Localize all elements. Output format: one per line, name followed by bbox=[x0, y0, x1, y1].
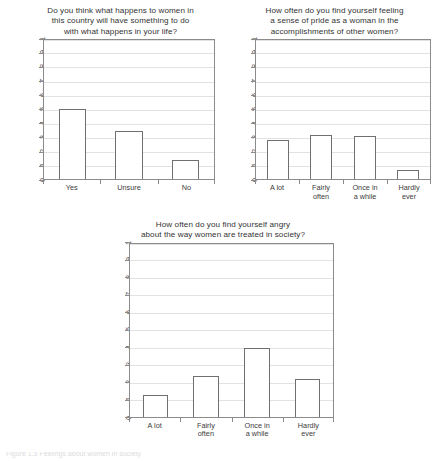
bar-chart-2-2 bbox=[354, 136, 376, 179]
bar-chart-3-0 bbox=[143, 395, 168, 417]
bar-chart-1-0 bbox=[59, 109, 86, 179]
chart-3-ytick-mark bbox=[125, 260, 129, 261]
chart-1-ytick-mark bbox=[39, 109, 43, 110]
chart-3-ytick-mark bbox=[125, 330, 129, 331]
chart-2-ytick-mark bbox=[251, 67, 255, 68]
chart-3-xtick-label: Once in a while bbox=[245, 422, 270, 439]
chart-1-ytick-mark bbox=[39, 53, 43, 54]
chart-1-bars bbox=[44, 40, 214, 179]
chart-1-xtick-label: No bbox=[182, 184, 191, 192]
chart-3-ytick-mark bbox=[125, 400, 129, 401]
chart-2-plot-area: 0.1.2.3.4.5.6.7.8.91 A lotFairly oftenOn… bbox=[238, 39, 431, 180]
chart-2-title: How often do you find yourself feeling a… bbox=[238, 6, 431, 37]
bar-chart-1-2 bbox=[172, 160, 199, 179]
chart-2-ytick-mark bbox=[251, 81, 255, 82]
figure-caption-text: Figure 1.5 Feelings about women in socie… bbox=[6, 452, 426, 458]
chart-2-xtick-label: Once in a while bbox=[352, 184, 377, 201]
chart-1-ytick-mark bbox=[39, 39, 43, 40]
chart-1-ytick-mark bbox=[39, 123, 43, 124]
bar-chart-2-1 bbox=[310, 135, 332, 179]
chart-2-ytick-mark bbox=[251, 53, 255, 54]
chart-1-ytick-mark bbox=[39, 95, 43, 96]
chart-2-x-axis-labels: A lotFairly oftenOnce in a whileHardly e… bbox=[255, 184, 431, 204]
figure-caption: Figure 1.5 Feelings about women in socie… bbox=[6, 452, 426, 461]
chart-2-xtick-label: Hardly ever bbox=[398, 184, 419, 201]
chart-2-bars bbox=[256, 40, 430, 179]
chart-3-xtick-label: A lot bbox=[148, 422, 162, 430]
chart-1-xtick-label: Yes bbox=[66, 184, 78, 192]
chart-1-xtick-label: Unsure bbox=[117, 184, 141, 192]
chart-1-ytick-mark bbox=[39, 67, 43, 68]
chart-panel-1: Do you think what happens to women in th… bbox=[26, 6, 215, 180]
bar-chart-2-0 bbox=[267, 140, 289, 180]
chart-3-ytick-mark bbox=[125, 365, 129, 366]
chart-1-ytick-mark bbox=[39, 152, 43, 153]
bar-chart-3-2 bbox=[244, 348, 269, 417]
chart-1-x-axis-labels: YesUnsureNo bbox=[43, 184, 215, 204]
bar-chart-3-3 bbox=[295, 379, 320, 417]
chart-3-ytick-mark bbox=[125, 347, 129, 348]
chart-3-title: How often do you find yourself angry abo… bbox=[112, 220, 334, 241]
chart-1-ytick-mark bbox=[39, 81, 43, 82]
chart-1-plot-area: 0.1.2.3.4.5.6.7.8.91 YesUnsureNo bbox=[26, 39, 215, 180]
bar-chart-3-1 bbox=[193, 376, 218, 417]
chart-2-plot-frame bbox=[255, 39, 431, 180]
bar-chart-2-3 bbox=[397, 170, 419, 179]
chart-3-ytick-mark bbox=[125, 382, 129, 383]
chart-3-ytick-mark bbox=[125, 242, 129, 243]
chart-3-xtick-label: Fairly often bbox=[197, 422, 215, 439]
chart-1-plot-frame bbox=[43, 39, 215, 180]
chart-panel-3: How often do you find yourself angry abo… bbox=[112, 220, 334, 418]
chart-1-ytick-mark bbox=[39, 166, 43, 167]
chart-3-x-axis-labels: A lotFairly oftenOnce in a whileHardly e… bbox=[129, 422, 334, 442]
chart-2-ytick-mark bbox=[251, 123, 255, 124]
chart-2-ytick-mark bbox=[251, 152, 255, 153]
chart-2-xtick-label: Fairly often bbox=[312, 184, 330, 201]
chart-3-xtick-label: Hardly ever bbox=[298, 422, 319, 439]
bar-chart-1-1 bbox=[115, 131, 142, 180]
chart-1-ytick-mark bbox=[39, 180, 43, 181]
chart-1-ytick-mark bbox=[39, 137, 43, 138]
chart-2-ytick-mark bbox=[251, 109, 255, 110]
chart-3-plot-frame bbox=[129, 243, 334, 418]
chart-2-ytick-mark bbox=[251, 137, 255, 138]
chart-2-ytick-mark bbox=[251, 166, 255, 167]
chart-3-ytick-mark bbox=[125, 417, 129, 418]
chart-3-ytick-mark bbox=[125, 295, 129, 296]
chart-3-bars bbox=[130, 244, 333, 417]
chart-3-plot-area: 0.1.2.3.4.5.6.7.8.91 A lotFairly oftenOn… bbox=[112, 243, 334, 418]
chart-2-ytick-mark bbox=[251, 39, 255, 40]
chart-3-ytick-mark bbox=[125, 277, 129, 278]
chart-2-ytick-mark bbox=[251, 95, 255, 96]
chart-3-ytick-mark bbox=[125, 312, 129, 313]
chart-2-xtick-label: A lot bbox=[270, 184, 284, 192]
chart-panel-2: How often do you find yourself feeling a… bbox=[238, 6, 431, 180]
chart-1-title: Do you think what happens to women in th… bbox=[26, 6, 215, 37]
chart-2-ytick-mark bbox=[251, 180, 255, 181]
